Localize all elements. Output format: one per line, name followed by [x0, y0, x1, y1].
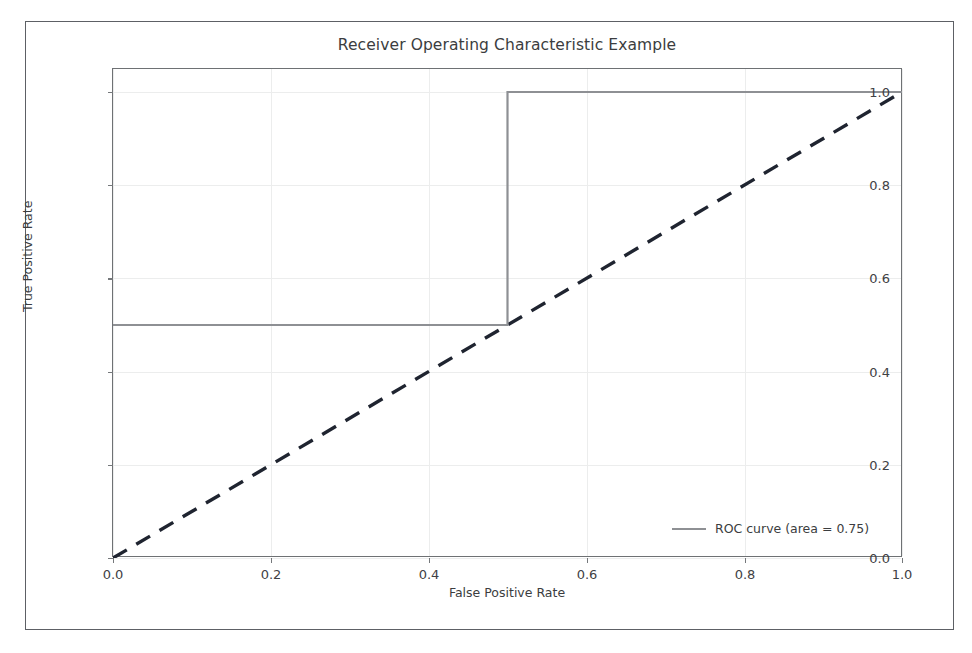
tick-y-0.2	[108, 465, 113, 466]
tick-x-0.0	[113, 558, 114, 563]
tick-y-0.8	[108, 185, 113, 186]
roc-chart-figure: Receiver Operating Characteristic Exampl…	[0, 0, 972, 653]
chart-legend: ROC curve (area = 0.75)	[672, 521, 869, 536]
ticklabel-x-1: 0.2	[261, 567, 282, 582]
ticklabel-y-1: 0.2	[869, 457, 890, 472]
ticklabel-x-0: 0.0	[103, 567, 124, 582]
ticklabel-y-4: 0.8	[869, 178, 890, 193]
tick-x-0.4	[429, 558, 430, 563]
legend-line-sample-roc	[672, 528, 706, 530]
ticklabel-y-2: 0.4	[869, 364, 890, 379]
tick-y-1.0	[108, 92, 113, 93]
roc-curve-line	[113, 92, 902, 325]
tick-x-1.0	[902, 558, 903, 563]
gridline-y-0.0	[113, 558, 901, 559]
plot-area: 0.0 0.2 0.4 0.6 0.8 1.0 0.0 0.2 0.4 0.6 …	[112, 68, 902, 557]
tick-y-0.6	[108, 278, 113, 279]
ticklabel-y-3: 0.6	[869, 271, 890, 286]
plot-inner: 0.0 0.2 0.4 0.6 0.8 1.0 0.0 0.2 0.4 0.6 …	[113, 69, 901, 556]
tick-y-0.4	[108, 372, 113, 373]
x-axis-label: False Positive Rate	[112, 585, 902, 600]
tick-x-0.6	[587, 558, 588, 563]
tick-x-0.2	[271, 558, 272, 563]
ticklabel-y-0: 0.0	[869, 551, 890, 566]
tick-y-0.0	[108, 558, 113, 559]
ticklabel-x-5: 1.0	[892, 567, 913, 582]
ticklabel-x-2: 0.4	[419, 567, 440, 582]
ticklabel-y-5: 1.0	[869, 85, 890, 100]
ticklabel-x-3: 0.6	[577, 567, 598, 582]
legend-label-roc: ROC curve (area = 0.75)	[715, 521, 869, 536]
ticklabel-x-4: 0.8	[735, 567, 756, 582]
chart-title: Receiver Operating Characteristic Exampl…	[112, 36, 902, 54]
tick-x-0.8	[745, 558, 746, 563]
y-axis-label: True Positive Rate	[20, 201, 35, 312]
curves-svg	[113, 69, 903, 558]
